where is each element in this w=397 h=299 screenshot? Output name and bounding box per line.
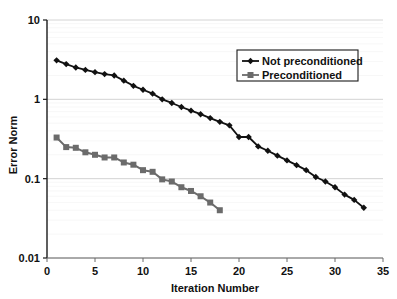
legend-label: Preconditioned (262, 69, 342, 81)
x-tick-label: 35 (377, 265, 389, 277)
data-point-marker (73, 145, 79, 151)
data-point-marker (130, 162, 136, 168)
data-point-marker (102, 154, 108, 160)
x-tick-label: 20 (233, 265, 245, 277)
legend-label: Not preconditioned (262, 55, 363, 67)
chart-legend: Not preconditionedPreconditioned (237, 50, 363, 81)
x-tick-label: 10 (137, 265, 149, 277)
legend-swatch-marker (248, 72, 254, 78)
data-point-marker (92, 152, 98, 158)
data-point-marker (217, 207, 223, 213)
x-tick-label: 5 (92, 265, 98, 277)
data-point-marker (111, 154, 117, 160)
data-point-marker (188, 188, 194, 194)
data-point-marker (178, 184, 184, 190)
chart-canvas: 0.010.1110 05101520253035 Iteration Numb… (0, 0, 397, 299)
x-tick-label: 25 (281, 265, 293, 277)
x-tick-label: 15 (185, 265, 197, 277)
data-point-marker (198, 193, 204, 199)
y-axis-title: Error Norm (7, 115, 19, 174)
y-tick-label: 10 (28, 14, 40, 26)
data-point-marker (207, 200, 213, 206)
data-point-marker (169, 179, 175, 185)
chart-figure: 0.010.1110 05101520253035 Iteration Numb… (0, 0, 397, 299)
chart-background (0, 0, 397, 299)
x-tick-label: 0 (44, 265, 50, 277)
data-point-marker (54, 135, 60, 141)
y-tick-label: 0.1 (25, 173, 40, 185)
y-tick-label: 1 (34, 93, 40, 105)
x-axis-title: Iteration Number (171, 282, 260, 294)
data-point-marker (150, 169, 156, 175)
x-tick-label: 30 (329, 265, 341, 277)
data-point-marker (63, 144, 69, 150)
y-tick-label: 0.01 (19, 252, 40, 264)
data-point-marker (140, 167, 146, 173)
data-point-marker (159, 176, 165, 182)
data-point-marker (121, 159, 127, 165)
data-point-marker (82, 149, 88, 155)
